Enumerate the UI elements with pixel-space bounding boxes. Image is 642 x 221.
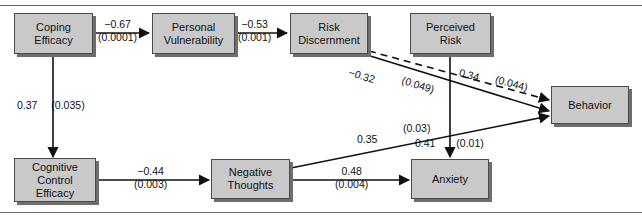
node-perceived-risk[interactable]: Perceived Risk — [410, 13, 491, 54]
p-value: (0.03) — [403, 122, 430, 135]
node-coping-efficacy[interactable]: Coping Efficacy — [14, 13, 93, 54]
edge-label-vulnerability-to-discernment: −0.53 (0.001) — [238, 18, 271, 44]
node-behavior[interactable]: Behavior — [551, 86, 629, 124]
coefficient: −0.53 — [238, 18, 271, 31]
coefficient: 0.37 — [17, 99, 37, 111]
node-label: Negative Thoughts — [226, 166, 276, 192]
p-value: (0.003) — [134, 178, 167, 191]
node-negative-thoughts[interactable]: Negative Thoughts — [211, 159, 290, 199]
p-value: (0.001) — [238, 31, 271, 44]
node-label: Cognitive Control Efficacy — [30, 161, 80, 200]
edge-label-perceived-risk-to-anxiety: 0.41 (0.01) — [415, 137, 484, 150]
edge-label-negative-to-behavior-coefficient: 0.35 — [357, 133, 377, 146]
coefficient: 0.48 — [335, 165, 368, 178]
node-label: Anxiety — [430, 173, 470, 186]
edge-label-cognitive-to-negative: −0.44 (0.003) — [134, 165, 167, 191]
node-label: Perceived Risk — [424, 21, 477, 47]
p-value: (0.004) — [335, 178, 368, 191]
coefficient: 0.41 — [415, 137, 435, 149]
edge-label-coping-to-vulnerability: −0.67 (0.0001) — [98, 18, 137, 44]
node-anxiety[interactable]: Anxiety — [411, 159, 489, 199]
node-personal-vulnerability[interactable]: Personal Vulnerability — [152, 13, 235, 54]
node-label: Coping Efficacy — [32, 21, 74, 47]
coefficient: −0.67 — [98, 18, 137, 31]
edge-label-negative-to-anxiety: 0.48 (0.004) — [335, 165, 368, 191]
edge-label-coping-to-cognitive: 0.37 (0.035) — [17, 99, 85, 112]
p-value: (0.01) — [456, 137, 483, 149]
p-value: (0.035) — [51, 99, 84, 111]
node-label: Personal Vulnerability — [162, 21, 226, 47]
node-label: Behavior — [566, 99, 613, 112]
coefficient: −0.44 — [134, 165, 167, 178]
node-label: Risk Discernment — [296, 21, 362, 47]
path-diagram-figure: Coping Efficacy Personal Vulnerability R… — [0, 0, 642, 221]
node-risk-discernment[interactable]: Risk Discernment — [290, 13, 368, 54]
node-cognitive-control-efficacy[interactable]: Cognitive Control Efficacy — [14, 158, 96, 202]
coefficient: 0.35 — [357, 133, 377, 146]
edge-label-negative-to-behavior-pvalue: (0.03) — [403, 122, 430, 135]
p-value: (0.0001) — [98, 31, 137, 44]
